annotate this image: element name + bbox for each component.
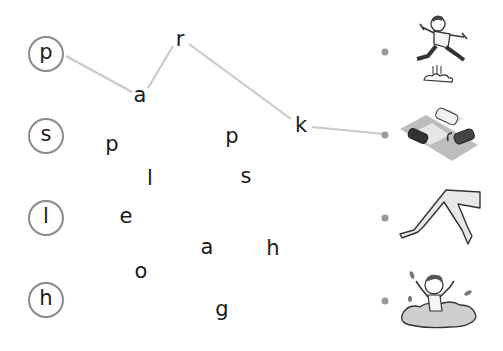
maze-letter-p[interactable]: p: [225, 126, 238, 147]
start-letter-circle-l[interactable]: l: [28, 200, 64, 236]
answer-dot[interactable]: [382, 49, 389, 56]
jumping-boy-picture: [412, 10, 474, 84]
maze-letter-p[interactable]: p: [105, 134, 118, 155]
connector-line: [189, 44, 291, 119]
answer-dot[interactable]: [382, 298, 389, 305]
start-letter-circle-h[interactable]: h: [28, 282, 64, 318]
maze-letter-a[interactable]: a: [201, 237, 214, 258]
word-maze-worksheet: p s l h r a k p p l s e a h o g: [0, 0, 503, 351]
connector-line: [148, 46, 173, 88]
maze-letter-g[interactable]: g: [215, 299, 228, 320]
maze-letter-e[interactable]: e: [120, 206, 133, 227]
answer-dot[interactable]: [382, 132, 389, 139]
start-letter-circle-p[interactable]: p: [28, 36, 64, 72]
start-letter: s: [41, 124, 52, 145]
start-letter: h: [39, 288, 52, 309]
connector-line: [66, 56, 132, 92]
start-letter: p: [39, 42, 52, 63]
maze-letter-l[interactable]: l: [147, 168, 153, 189]
maze-letter-s[interactable]: s: [241, 166, 252, 187]
start-letter: l: [43, 206, 49, 227]
answer-dot[interactable]: [382, 215, 389, 222]
connector-line: [312, 127, 384, 134]
maze-letter-a[interactable]: a: [134, 85, 147, 106]
parking-cars-picture: [398, 103, 480, 163]
start-letter-circle-s[interactable]: s: [28, 118, 64, 154]
maze-letter-h[interactable]: h: [266, 238, 279, 259]
maze-letter-k[interactable]: k: [295, 115, 307, 136]
splashing-boy-picture: [398, 265, 482, 331]
maze-letter-o[interactable]: o: [135, 261, 148, 282]
maze-letter-r[interactable]: r: [176, 29, 185, 50]
legs-picture: [398, 186, 482, 246]
